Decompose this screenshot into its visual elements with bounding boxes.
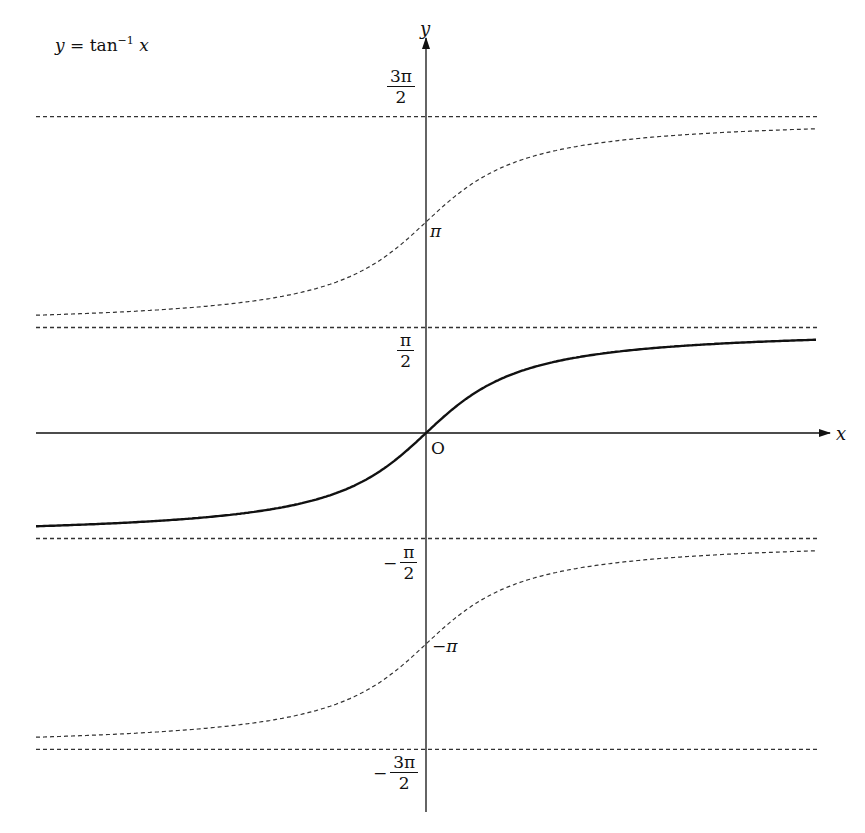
tick-den: 2 xyxy=(387,87,415,107)
y-tick-pi: π xyxy=(430,221,441,241)
y-tick-neg-pi-over-2: − π2 xyxy=(383,542,417,583)
tick-den: 2 xyxy=(400,563,417,583)
plot-canvas xyxy=(0,0,865,833)
tick-num: 3π xyxy=(387,66,415,87)
y-tick-3pi-over-2: 3π2 xyxy=(384,66,415,107)
chart-title: y = tan−1 x xyxy=(55,34,149,55)
x-axis-label: x xyxy=(836,423,846,444)
title-lhs: y xyxy=(55,35,65,55)
y-axis-label: y xyxy=(420,18,430,39)
tick-sign: − xyxy=(373,763,387,783)
tick-num: π xyxy=(400,542,417,563)
tick-sign: − xyxy=(383,553,397,573)
title-arg: x xyxy=(134,35,149,55)
title-sup: −1 xyxy=(118,34,134,47)
tick-num: π xyxy=(397,330,414,351)
y-tick-neg-3pi-over-2: − 3π2 xyxy=(373,752,418,793)
y-tick-pi-over-2: π2 xyxy=(394,330,414,371)
tick-den: 2 xyxy=(390,773,418,793)
tick-den: 2 xyxy=(397,351,414,371)
y-tick-neg-pi: −π xyxy=(432,636,457,656)
title-func: = tan xyxy=(65,35,118,55)
tick-num: 3π xyxy=(390,752,418,773)
origin-label: O xyxy=(431,438,445,458)
